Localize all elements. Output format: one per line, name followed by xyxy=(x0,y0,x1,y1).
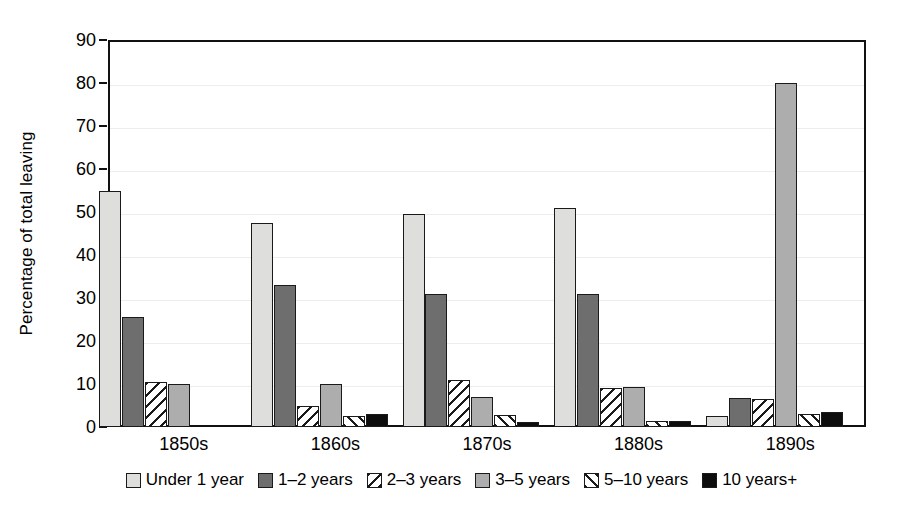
y-axis-tick-label: 90 xyxy=(50,31,96,49)
x-axis-label-1860s: 1860s xyxy=(275,434,395,455)
legend-swatch-5-10-years xyxy=(584,473,599,488)
bar-group xyxy=(563,40,715,427)
y-axis-tick-mark xyxy=(99,39,107,41)
legend-item[interactable]: 10 years+ xyxy=(702,470,797,490)
bar xyxy=(448,380,470,427)
bar xyxy=(366,414,388,427)
legend-item[interactable]: 3–5 years xyxy=(475,470,570,490)
legend-item[interactable]: 5–10 years xyxy=(584,470,688,490)
bar xyxy=(403,214,425,427)
bar xyxy=(600,388,622,427)
bar-chart: Percentage of total leaving 908070605040… xyxy=(0,0,923,507)
y-axis-tick-label: 0 xyxy=(50,418,96,436)
legend-swatch-10-years-plus xyxy=(702,473,717,488)
y-axis-tick-mark xyxy=(99,82,107,84)
bar xyxy=(471,397,493,427)
bars-layer xyxy=(108,40,866,427)
bar xyxy=(168,384,190,427)
bar xyxy=(706,416,728,427)
bar xyxy=(554,208,576,427)
bar xyxy=(343,416,365,427)
bar xyxy=(821,412,843,427)
bar xyxy=(320,384,342,427)
x-axis-label-1880s: 1880s xyxy=(579,434,699,455)
legend-label: 1–2 years xyxy=(278,470,353,490)
x-axis-label-1870s: 1870s xyxy=(427,434,547,455)
bar xyxy=(122,317,144,427)
y-axis-tick-mark xyxy=(99,168,107,170)
bar xyxy=(775,83,797,427)
bar-group xyxy=(411,40,563,427)
bar xyxy=(297,406,319,428)
legend-item[interactable]: 2–3 years xyxy=(367,470,462,490)
legend-item[interactable]: 1–2 years xyxy=(258,470,353,490)
y-axis-tick-label: 40 xyxy=(50,246,96,264)
legend-swatch-2-3-years xyxy=(367,473,382,488)
y-axis-tick-label: 20 xyxy=(50,332,96,350)
legend-label: 10 years+ xyxy=(722,470,797,490)
bar xyxy=(494,415,516,427)
legend-label: 3–5 years xyxy=(495,470,570,490)
y-axis-tick-label: 10 xyxy=(50,375,96,393)
bar xyxy=(517,422,539,427)
bar xyxy=(577,294,599,427)
x-axis-label-1850s: 1850s xyxy=(124,434,244,455)
bar-group xyxy=(714,40,866,427)
bar-group xyxy=(108,40,260,427)
x-axis-label-1890s: 1890s xyxy=(730,434,850,455)
bar xyxy=(669,421,691,427)
bar xyxy=(251,223,273,427)
y-axis-tick-label: 30 xyxy=(50,289,96,307)
bar xyxy=(752,399,774,427)
bar xyxy=(646,421,668,427)
legend-label: Under 1 year xyxy=(146,470,244,490)
legend-item[interactable]: Under 1 year xyxy=(126,470,244,490)
legend-swatch-under-1-year xyxy=(126,473,141,488)
legend-label: 2–3 years xyxy=(387,470,462,490)
legend-swatch-1-2-years xyxy=(258,473,273,488)
bar xyxy=(145,382,167,427)
bar xyxy=(729,398,751,427)
y-axis-tick-mark xyxy=(99,125,107,127)
chart-legend: Under 1 year1–2 years2–3 years3–5 years5… xyxy=(0,470,923,490)
y-axis-tick-label: 50 xyxy=(50,203,96,221)
bar xyxy=(425,294,447,427)
bar xyxy=(274,285,296,427)
y-axis-tick-label: 60 xyxy=(50,160,96,178)
y-axis-title: Percentage of total leaving xyxy=(14,40,40,427)
bar xyxy=(99,191,121,428)
legend-swatch-3-5-years xyxy=(475,473,490,488)
y-axis-tick-label: 80 xyxy=(50,74,96,92)
bar xyxy=(623,387,645,427)
y-axis-tick-label: 70 xyxy=(50,117,96,135)
bar-group xyxy=(260,40,412,427)
legend-label: 5–10 years xyxy=(604,470,688,490)
bar xyxy=(798,414,820,427)
